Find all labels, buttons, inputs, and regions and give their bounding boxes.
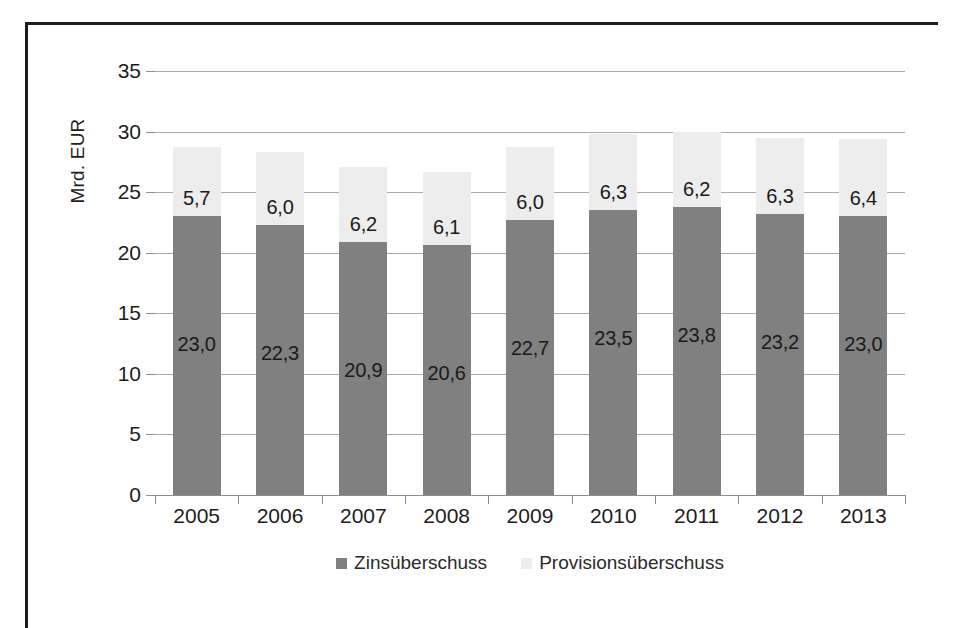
y-tick-label: 10: [118, 362, 141, 386]
x-tick-mark: [822, 495, 823, 504]
bar-value-label: 23,8: [678, 324, 716, 347]
plot-area: 35302520151050 5,723,06,022,36,220,96,12…: [155, 71, 905, 495]
x-axis-label: 2011: [655, 504, 738, 528]
bar-value-label: 6,0: [266, 196, 293, 219]
bar-stack[interactable]: 6,223,8: [673, 132, 721, 495]
legend-label: Provisionsüberschuss: [539, 552, 724, 574]
bar-value-label: 20,6: [428, 362, 466, 385]
x-axis-label: 2008: [405, 504, 488, 528]
legend-entry[interactable]: Zinsüberschuss: [336, 552, 487, 574]
legend-swatch-icon: [521, 558, 532, 569]
bar-stack[interactable]: 6,120,6: [423, 172, 471, 495]
bar-value-label: 23,0: [844, 333, 882, 356]
bar-segment-provisionsueberschuss[interactable]: 6,2: [673, 132, 721, 207]
bar-segment-zinsueberschuss[interactable]: 23,2: [756, 214, 804, 495]
x-axis-label: 2006: [238, 504, 321, 528]
y-tick-mark: [146, 132, 155, 133]
legend-entry[interactable]: Provisionsüberschuss: [521, 552, 724, 574]
y-tick-mark: [146, 313, 155, 314]
bar-segment-zinsueberschuss[interactable]: 20,6: [423, 245, 471, 495]
bar-segment-zinsueberschuss[interactable]: 23,5: [589, 210, 637, 495]
y-tick-label: 30: [118, 120, 141, 144]
bar-slot[interactable]: 6,022,7: [488, 71, 571, 495]
legend-label: Zinsüberschuss: [354, 552, 487, 574]
y-tick-label: 5: [129, 422, 141, 446]
y-tick-label: 20: [118, 241, 141, 265]
x-axis-label: 2013: [822, 504, 905, 528]
bar-slot[interactable]: 6,120,6: [405, 71, 488, 495]
bar-stack[interactable]: 5,723,0: [173, 147, 221, 495]
bar-segment-provisionsueberschuss[interactable]: 6,0: [506, 147, 554, 220]
x-axis-label: 2009: [488, 504, 571, 528]
bar-value-label: 6,3: [600, 181, 627, 204]
bar-segment-zinsueberschuss[interactable]: 20,9: [339, 242, 387, 495]
x-tick-mark: [738, 495, 739, 504]
bar-stack[interactable]: 6,323,2: [756, 138, 804, 495]
bar-value-label: 6,2: [350, 213, 377, 236]
bar-segment-zinsueberschuss[interactable]: 23,8: [673, 207, 721, 495]
bar-value-label: 6,0: [516, 191, 543, 214]
bar-segment-zinsueberschuss[interactable]: 22,7: [506, 220, 554, 495]
y-tick-mark: [146, 374, 155, 375]
bar-value-label: 20,9: [344, 359, 382, 382]
y-tick-mark: [146, 71, 155, 72]
bar-segment-provisionsueberschuss[interactable]: 6,3: [756, 138, 804, 214]
x-axis-label: 2010: [572, 504, 655, 528]
bar-slot[interactable]: 6,022,3: [238, 71, 321, 495]
x-axis-label: 2012: [738, 504, 821, 528]
bar-segment-provisionsueberschuss[interactable]: 6,3: [589, 134, 637, 210]
bar-segment-zinsueberschuss[interactable]: 23,0: [173, 216, 221, 495]
y-tick-label: 25: [118, 180, 141, 204]
bar-slot[interactable]: 6,423,0: [822, 71, 905, 495]
x-tick-mark: [322, 495, 323, 504]
bar-value-label: 6,4: [850, 187, 877, 210]
y-tick-label: 15: [118, 301, 141, 325]
x-axis-labels: 200520062007200820092010201120122013: [155, 504, 905, 528]
bar-series-group: 5,723,06,022,36,220,96,120,66,022,76,323…: [155, 71, 905, 495]
bar-segment-provisionsueberschuss[interactable]: 5,7: [173, 147, 221, 216]
y-tick-mark: [146, 434, 155, 435]
bar-stack[interactable]: 6,423,0: [839, 139, 887, 495]
y-tick-label: 0: [129, 483, 141, 507]
bar-segment-zinsueberschuss[interactable]: 22,3: [256, 225, 304, 495]
bar-value-label: 5,7: [183, 187, 210, 210]
y-tick-label: 35: [118, 59, 141, 83]
bar-segment-provisionsueberschuss[interactable]: 6,2: [339, 167, 387, 242]
bar-slot[interactable]: 6,223,8: [655, 71, 738, 495]
bar-value-label: 22,3: [261, 342, 299, 365]
bar-slot[interactable]: 6,323,2: [738, 71, 821, 495]
bar-stack[interactable]: 6,220,9: [339, 167, 387, 495]
bar-stack[interactable]: 6,323,5: [589, 134, 637, 495]
stacked-bar-chart: Mrd. EUR 35302520151050 5,723,06,022,36,…: [0, 0, 958, 628]
bar-value-label: 6,1: [433, 216, 460, 239]
x-tick-mark: [905, 495, 906, 504]
y-axis-title: Mrd. EUR: [67, 81, 89, 241]
x-tick-mark: [155, 495, 156, 504]
y-tick-mark: [146, 495, 155, 496]
bar-value-label: 23,0: [178, 333, 216, 356]
x-tick-mark: [572, 495, 573, 504]
bar-value-label: 6,2: [683, 178, 710, 201]
x-axis-tick-marks: [155, 495, 905, 504]
bar-value-label: 23,2: [761, 331, 799, 354]
bar-stack[interactable]: 6,022,3: [256, 152, 304, 495]
bar-stack[interactable]: 6,022,7: [506, 147, 554, 495]
bar-segment-zinsueberschuss[interactable]: 23,0: [839, 216, 887, 495]
x-tick-mark: [488, 495, 489, 504]
bar-value-label: 23,5: [594, 327, 632, 350]
legend-swatch-icon: [336, 558, 347, 569]
bar-segment-provisionsueberschuss[interactable]: 6,1: [423, 172, 471, 246]
bar-slot[interactable]: 5,723,0: [155, 71, 238, 495]
bar-slot[interactable]: 6,323,5: [572, 71, 655, 495]
x-axis-label: 2007: [322, 504, 405, 528]
y-tick-mark: [146, 253, 155, 254]
chart-legend: ZinsüberschussProvisionsüberschuss: [155, 552, 905, 574]
bar-segment-provisionsueberschuss[interactable]: 6,0: [256, 152, 304, 225]
bar-slot[interactable]: 6,220,9: [322, 71, 405, 495]
x-axis-label: 2005: [155, 504, 238, 528]
y-tick-mark: [146, 192, 155, 193]
bar-segment-provisionsueberschuss[interactable]: 6,4: [839, 139, 887, 217]
x-tick-mark: [405, 495, 406, 504]
bar-value-label: 22,7: [511, 337, 549, 360]
x-tick-mark: [238, 495, 239, 504]
